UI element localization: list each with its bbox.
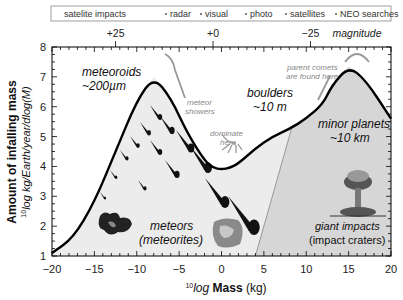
label-meteoroids-size: ~200µm: [82, 79, 126, 93]
legend-item: satellites: [290, 9, 326, 19]
label-parent-comets-2: are found here: [286, 72, 339, 81]
svg-text:7: 7: [40, 71, 46, 83]
magnitude-tick: +25: [107, 27, 125, 39]
magnitude-tick: +0: [207, 27, 219, 39]
x-tick-labels: −20−15−10−505101520: [43, 263, 397, 275]
legend-item: photo: [250, 9, 273, 19]
legend-item: radar: [170, 9, 191, 19]
svg-text:5: 5: [40, 131, 46, 143]
legend-item: satelite impacts: [64, 9, 127, 19]
label-minor-planets-size: ~10 km: [330, 131, 370, 145]
svg-text:−20: −20: [43, 263, 62, 275]
svg-text:4: 4: [40, 160, 46, 172]
svg-text:−15: −15: [85, 263, 104, 275]
svg-text:8: 8: [40, 41, 46, 53]
label-boulders: boulders: [247, 86, 293, 100]
svg-text:5: 5: [261, 263, 267, 275]
label-dominate-1: dominate: [210, 129, 243, 138]
svg-text:15: 15: [343, 263, 355, 275]
label-meteoroids: meteoroids: [82, 65, 141, 79]
label-giant-impacts: giant impacts: [315, 220, 380, 232]
label-meteor-showers-2: showers: [185, 107, 215, 116]
x-axis-title: 10log Mass (kg): [185, 281, 266, 295]
magnitude-tick: −25: [302, 27, 320, 39]
svg-text:−10: −10: [127, 263, 146, 275]
svg-text:1: 1: [40, 250, 46, 262]
label-minor-planets: minor planets: [318, 117, 390, 131]
label-dominate-2: here: [220, 138, 237, 147]
svg-text:0: 0: [218, 263, 224, 275]
label-meteor-showers-1: meteor: [187, 98, 212, 107]
chart: satelite impactsradarvisualphotosatellit…: [0, 0, 403, 300]
svg-text:10: 10: [300, 263, 312, 275]
legend-item: visual: [205, 9, 228, 19]
svg-text:6: 6: [40, 101, 46, 113]
y-tick-labels: 12345678: [40, 41, 46, 262]
label-meteors: meteors: [150, 219, 193, 233]
svg-text:−5: −5: [173, 263, 186, 275]
svg-text:20: 20: [385, 263, 397, 275]
svg-text:2: 2: [40, 220, 46, 232]
label-boulders-size: ~10 m: [253, 100, 287, 114]
y-axis-title: Amount of infalling mass 10log kg/Earth/…: [5, 80, 32, 224]
legend-item: NEO searches: [340, 9, 399, 19]
boulder-image-icon: [213, 218, 243, 247]
label-parent-comets-1: parent comets: [286, 63, 338, 72]
svg-text:Amount of infalling mass: Amount of infalling mass: [5, 80, 19, 224]
magnitude-axis: +25+0−25magnitude: [107, 27, 382, 47]
label-impact-craters: (impact craters): [309, 234, 385, 246]
label-meteorites: (meteorites): [139, 233, 203, 247]
meteor-showers-arrow: [165, 54, 185, 98]
svg-text:3: 3: [40, 190, 46, 202]
svg-text:10log kg/Earth/year/dlog(M): 10log kg/Earth/year/dlog(M): [20, 86, 32, 218]
magnitude-label: magnitude: [332, 27, 381, 39]
